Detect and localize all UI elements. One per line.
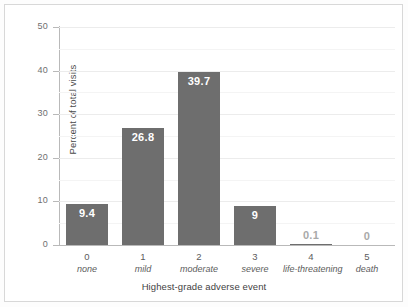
y-axis-tick-label: 0 (14, 239, 48, 249)
bar-value-label: 9 (252, 209, 258, 221)
x-tick-number: 0 (59, 250, 115, 263)
bar[interactable]: 26.8 (122, 128, 164, 245)
x-tick-number: 5 (339, 250, 395, 263)
bar-value-label: 26.8 (132, 131, 155, 143)
x-tick-group: 1mild (115, 250, 171, 276)
x-tick-group: 0none (59, 250, 115, 276)
y-axis-tick-label: 10 (14, 195, 48, 205)
x-axis-title: Highest-grade adverse event (0, 281, 408, 292)
x-tick-name: moderate (171, 263, 227, 276)
y-axis-tick (53, 114, 59, 115)
x-tick-group: 2moderate (171, 250, 227, 276)
x-tick-name: life-threatening (283, 263, 339, 276)
bar-slot: 26.8 (115, 27, 171, 245)
y-axis-tick (53, 201, 59, 202)
bar-slot: 0.1 (283, 27, 339, 245)
x-tick-name: death (339, 263, 395, 276)
bar[interactable]: 39.7 (178, 72, 220, 245)
y-axis-tick (53, 245, 59, 246)
plot-area: 9.426.839.790.10 (59, 27, 395, 245)
y-axis-tick (53, 158, 59, 159)
bar-slot: 0 (339, 27, 395, 245)
bar-value-label: 9.4 (79, 207, 95, 219)
bar-value-label: 39.7 (188, 75, 211, 87)
y-axis-tick-label: 50 (14, 21, 48, 31)
y-axis-tick (53, 71, 59, 72)
bar[interactable]: 0.1 (290, 244, 332, 246)
y-axis-tick-label: 40 (14, 65, 48, 75)
y-axis-tick-label: 20 (14, 152, 48, 162)
bar[interactable]: 9 (234, 206, 276, 245)
x-tick-group: 3severe (227, 250, 283, 276)
x-tick-number: 4 (283, 250, 339, 263)
x-tick-number: 3 (227, 250, 283, 263)
bar[interactable]: 9.4 (66, 204, 108, 245)
bar-value-label: 0 (364, 230, 370, 242)
figure: Percent of total visits 9.426.839.790.10… (0, 0, 408, 307)
x-tick-name: mild (115, 263, 171, 276)
y-axis-tick (53, 27, 59, 28)
x-axis-line (59, 245, 395, 246)
bar-slot: 9.4 (59, 27, 115, 245)
bar-slot: 39.7 (171, 27, 227, 245)
bar-slot: 9 (227, 27, 283, 245)
x-tick-name: severe (227, 263, 283, 276)
x-tick-number: 1 (115, 250, 171, 263)
x-tick-group: 4life-threatening (283, 250, 339, 276)
x-tick-name: none (59, 263, 115, 276)
x-tick-number: 2 (171, 250, 227, 263)
y-axis-tick-label: 30 (14, 108, 48, 118)
bar-value-label: 0.1 (303, 229, 319, 241)
x-tick-group: 5death (339, 250, 395, 276)
